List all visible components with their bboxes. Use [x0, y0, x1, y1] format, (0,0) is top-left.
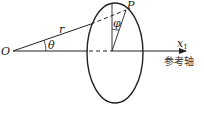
- theta-arc: [44, 40, 46, 51]
- radius-label: r: [59, 23, 65, 36]
- axis-symbol-label: x1: [177, 37, 188, 51]
- phi-label: φ: [113, 17, 121, 30]
- theta-label: θ: [48, 39, 55, 52]
- diagram-canvas: O P r θ φ x1 参考轴: [0, 0, 204, 113]
- origin-label: O: [1, 45, 10, 58]
- axis-name-label: 参考轴: [164, 55, 194, 67]
- point-label: P: [126, 0, 135, 12]
